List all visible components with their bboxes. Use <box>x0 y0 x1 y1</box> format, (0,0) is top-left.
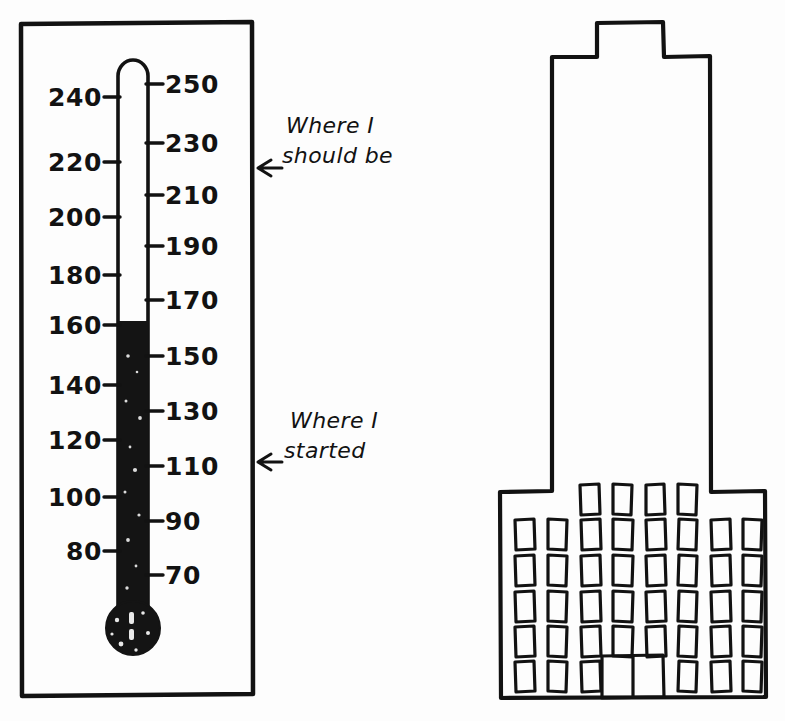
scale-label-left-4: 160 <box>48 311 102 340</box>
scale-label-left-6: 120 <box>48 426 102 455</box>
scale-label-right-0: 250 <box>165 70 219 99</box>
drawing-canvas: 240 220 200 180 160 140 120 100 80 250 2… <box>0 0 785 721</box>
scale-label-right-6: 130 <box>165 397 219 426</box>
scale-label-right-4: 170 <box>165 286 219 315</box>
building-window-row-4 <box>515 626 762 657</box>
scale-label-right-8: 90 <box>165 507 201 536</box>
scale-labels-left: 240 220 200 180 160 140 120 100 80 <box>48 83 102 566</box>
scale-label-left-2: 200 <box>48 203 102 232</box>
thermometer-bulb <box>106 601 160 655</box>
thermometer-fill <box>119 322 147 622</box>
building-window-row-3 <box>515 591 762 622</box>
scale-label-left-1: 220 <box>48 148 102 177</box>
scale-label-left-3: 180 <box>48 261 102 290</box>
scale-labels-right: 250 230 210 190 170 150 130 110 90 70 <box>165 70 219 590</box>
annotation-should-be-line1: Where I <box>286 113 374 138</box>
scale-label-right-7: 110 <box>165 452 219 481</box>
building-window-row-5 <box>515 661 762 692</box>
scale-label-right-9: 70 <box>165 561 201 590</box>
annotation-started: Where I started <box>258 408 378 470</box>
scale-label-left-7: 100 <box>48 483 102 512</box>
scale-label-right-2: 210 <box>165 181 219 210</box>
annotation-started-line2: started <box>284 438 366 463</box>
building-window-row-tower <box>580 484 697 515</box>
main-entrance-door[interactable] <box>602 655 664 698</box>
scale-label-left-8: 80 <box>66 537 102 566</box>
scale-label-right-3: 190 <box>165 232 219 261</box>
scale-label-left-5: 140 <box>48 371 102 400</box>
annotation-should-be: Where I should be <box>258 113 393 176</box>
arrow-left-icon-started <box>258 454 282 470</box>
scale-label-right-5: 150 <box>165 342 219 371</box>
scale-label-right-1: 230 <box>165 129 219 158</box>
annotation-started-line1: Where I <box>290 408 378 433</box>
scale-label-left-0: 240 <box>48 83 102 112</box>
building-window-row-1 <box>515 519 762 550</box>
arrow-left-icon-should-be <box>258 160 282 176</box>
hand-drawn-illustration: 240 220 200 180 160 140 120 100 80 250 2… <box>0 0 785 721</box>
building-window-row-2 <box>515 555 762 586</box>
annotation-should-be-line2: should be <box>282 143 393 168</box>
